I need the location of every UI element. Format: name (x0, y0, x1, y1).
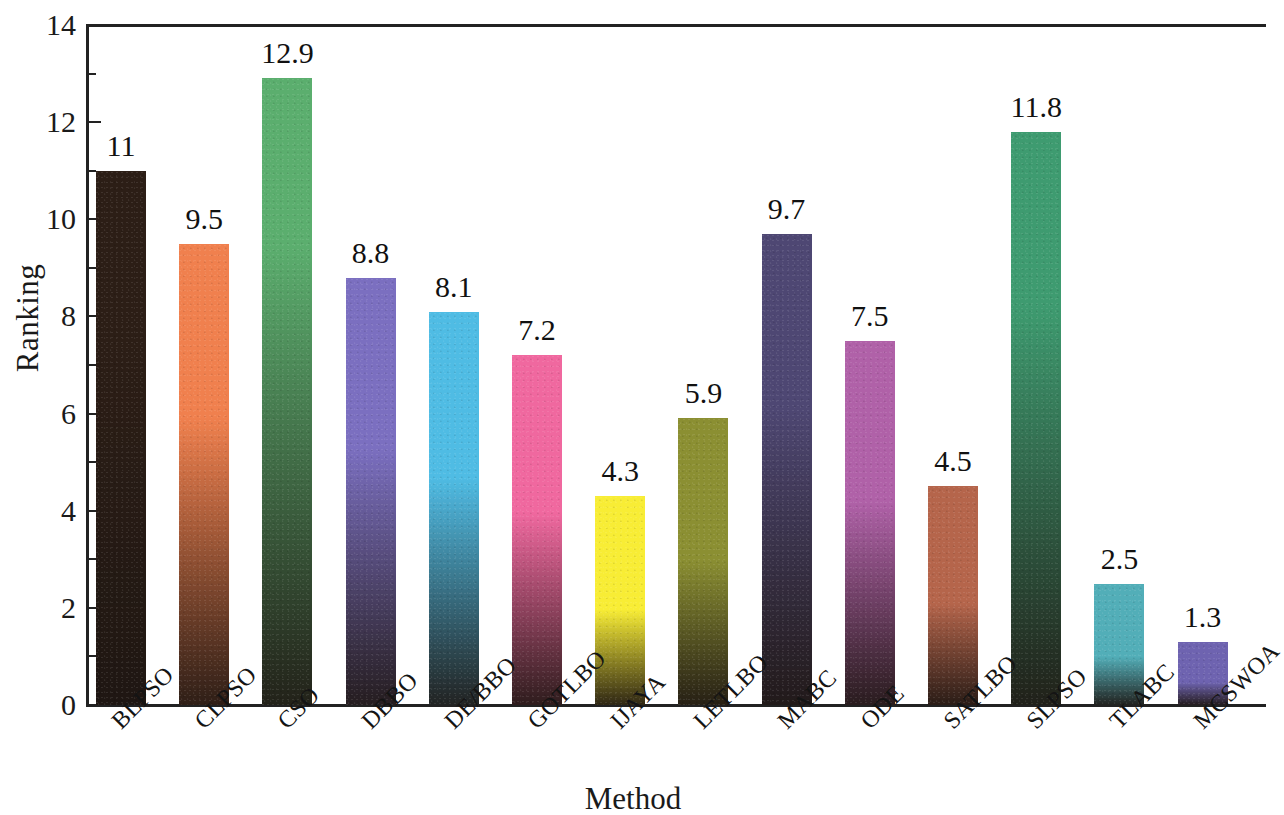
bar-texture (762, 234, 812, 705)
bar-value-label: 4.3 (601, 456, 639, 486)
bar-texture (346, 278, 396, 705)
bar-texture (262, 78, 312, 705)
bar: 9.7 (762, 234, 812, 705)
bar-texture (1011, 132, 1061, 705)
bar-fill (262, 78, 312, 705)
bar: 8.8 (346, 278, 396, 705)
bar-value-label: 4.5 (934, 446, 972, 476)
bar-value-label: 5.9 (685, 378, 723, 408)
bar-value-label: 11 (107, 131, 136, 161)
bar-fill (762, 234, 812, 705)
bar: 8.1 (429, 312, 479, 705)
bar-texture (512, 355, 562, 705)
bar-fill (595, 496, 645, 705)
bar: 9.5 (179, 244, 229, 705)
bar-fill (512, 355, 562, 705)
x-axis-title: Method (0, 781, 1266, 815)
bar: 4.3 (595, 496, 645, 705)
bar-value-label: 8.1 (435, 272, 473, 302)
bar-value-label: 9.7 (768, 194, 806, 224)
bar-fill (96, 171, 146, 705)
bar-value-label: 7.5 (851, 301, 889, 331)
bar-value-label: 7.2 (518, 315, 556, 345)
bar: 7.5 (845, 341, 895, 705)
bar-texture (96, 171, 146, 705)
bar-fill (429, 312, 479, 705)
bar-fill (928, 486, 978, 705)
bar-value-label: 2.5 (1101, 544, 1139, 574)
bar: 7.2 (512, 355, 562, 705)
bar: 5.9 (678, 418, 728, 705)
bar: 11.8 (1011, 132, 1061, 705)
bar-value-label: 9.5 (185, 204, 223, 234)
bar-fill (1011, 132, 1061, 705)
bar-fill (678, 418, 728, 705)
bar-value-label: 11.8 (1010, 92, 1061, 122)
bar-value-label: 12.9 (261, 38, 314, 68)
bar-texture (429, 312, 479, 705)
bar-texture (678, 418, 728, 705)
bar-fill (845, 341, 895, 705)
bar: 11 (96, 171, 146, 705)
bar-value-label: 1.3 (1184, 602, 1222, 632)
bar: 4.5 (928, 486, 978, 705)
bar-value-label: 8.8 (352, 238, 390, 268)
bar: 12.9 (262, 78, 312, 705)
bar-fill (346, 278, 396, 705)
bar-fill (179, 244, 229, 705)
bar-texture (595, 496, 645, 705)
bar-texture (845, 341, 895, 705)
bar-texture (179, 244, 229, 705)
bar-texture (928, 486, 978, 705)
